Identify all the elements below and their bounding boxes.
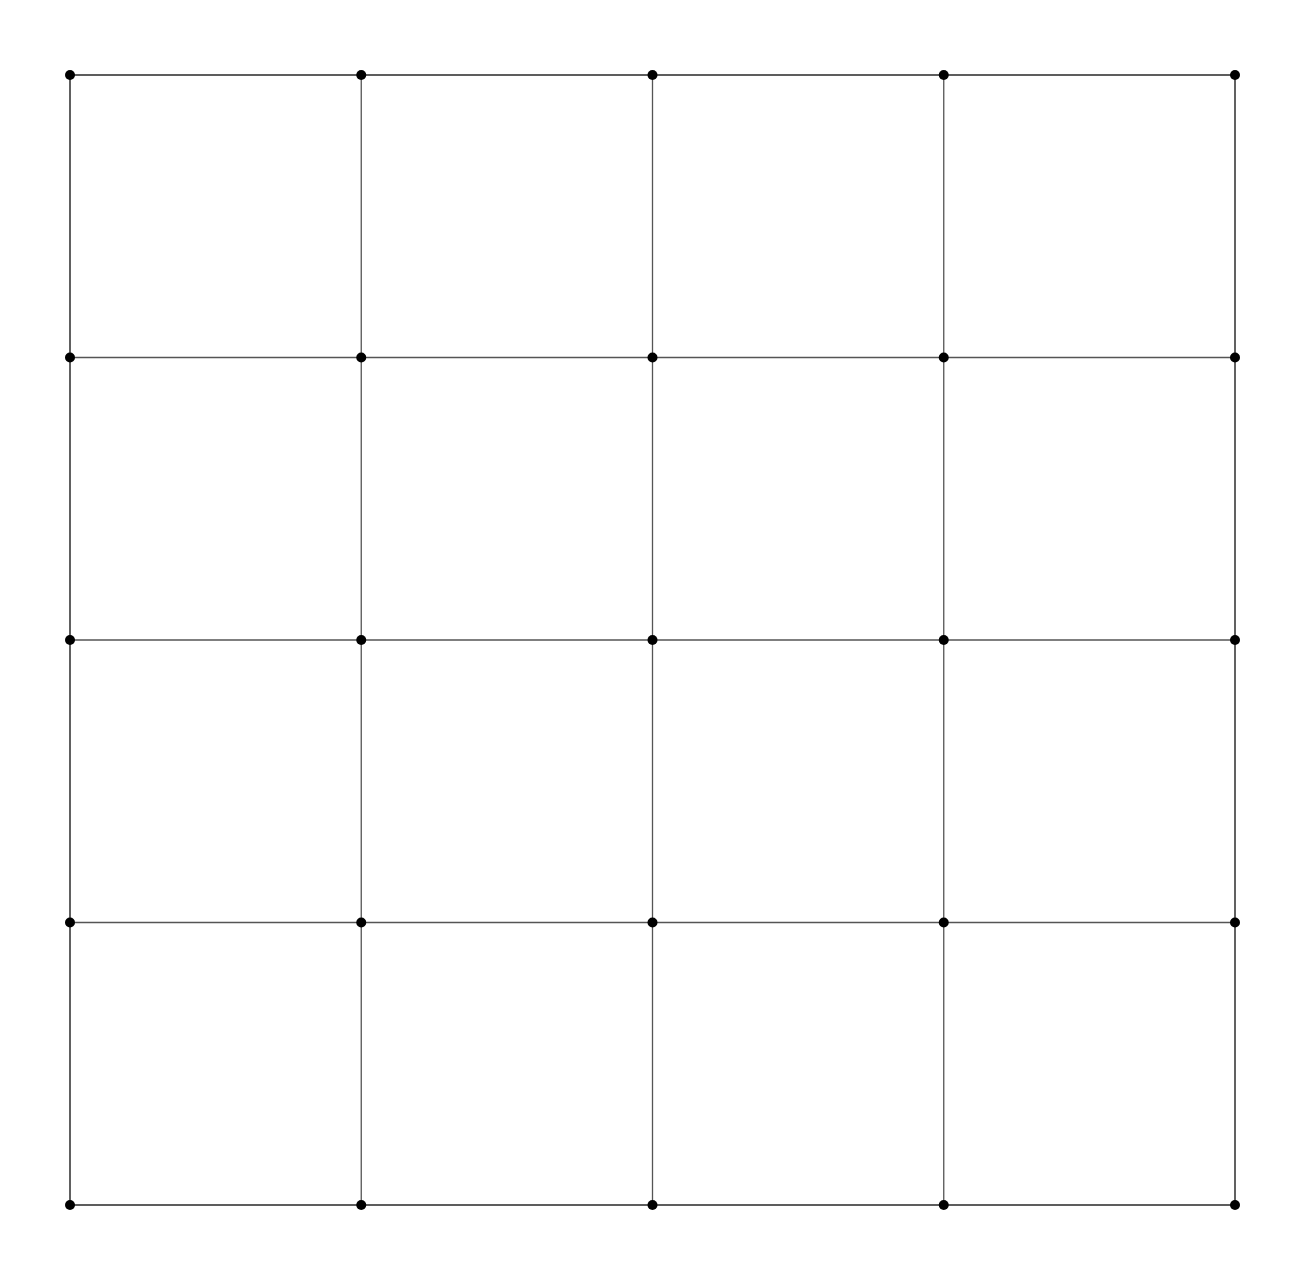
mesh-hub-node (356, 70, 366, 80)
mesh-hub-node (65, 918, 75, 928)
mesh-hub-node (65, 70, 75, 80)
mesh-hub-node (1230, 353, 1240, 363)
mesh-hub-node (1230, 635, 1240, 645)
mesh-hub-node (939, 918, 949, 928)
mesh-hub-node (648, 918, 658, 928)
mesh-hub-node (648, 1200, 658, 1210)
mesh-hub-node (356, 918, 366, 928)
mesh-hub-node (1230, 918, 1240, 928)
mesh-hub-node (939, 1200, 949, 1210)
mesh-hub-node (939, 353, 949, 363)
mesh-hub-node (356, 635, 366, 645)
mesh-hub-node (65, 1200, 75, 1210)
mesh-hub-node (65, 353, 75, 363)
mesh-hub-node (648, 70, 658, 80)
mesh-hub-node (939, 635, 949, 645)
mesh-hub-node (648, 635, 658, 645)
mesh-hub-node (1230, 70, 1240, 80)
mesh-canvas (0, 0, 1309, 1276)
mesh-hub-node (356, 1200, 366, 1210)
mesh-figure-root (0, 0, 1309, 1276)
mesh-hub-node (648, 353, 658, 363)
mesh-hub-node (1230, 1200, 1240, 1210)
mesh-hub-node (356, 353, 366, 363)
mesh-hub-node (65, 635, 75, 645)
mesh-hub-node (939, 70, 949, 80)
